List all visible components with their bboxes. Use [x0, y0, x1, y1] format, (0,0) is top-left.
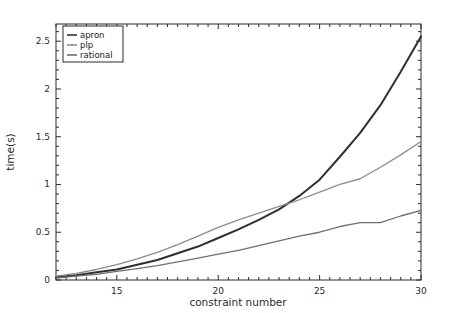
- x-tick-label: 30: [415, 286, 427, 296]
- y-tick-label: 1.5: [36, 132, 50, 142]
- tick-labels: 1520253000.511.522.5: [36, 36, 427, 296]
- y-tick-label: 2: [44, 84, 50, 94]
- y-tick-label: 0.5: [36, 227, 50, 237]
- x-tick-label: 20: [212, 286, 224, 296]
- series-group: [56, 36, 421, 278]
- legend-label-rational: rational: [80, 50, 113, 60]
- line-chart: 1520253000.511.522.5 constraint number t…: [0, 0, 452, 313]
- y-tick-label: 1: [44, 179, 50, 189]
- chart-legend: apronplprational: [63, 26, 123, 62]
- x-axis-title: constraint number: [189, 296, 287, 308]
- legend-label-apron: apron: [80, 30, 105, 40]
- x-tick-label: 25: [314, 286, 325, 296]
- y-axis-title: time(s): [4, 133, 16, 170]
- y-tick-label: 0: [44, 275, 50, 285]
- series-line-apron: [56, 36, 421, 277]
- series-line-plp: [56, 141, 421, 276]
- x-tick-label: 15: [111, 286, 122, 296]
- legend-label-plp: plp: [80, 40, 93, 50]
- chart-figure: 1520253000.511.522.5 constraint number t…: [0, 0, 452, 313]
- y-tick-label: 2.5: [36, 36, 50, 46]
